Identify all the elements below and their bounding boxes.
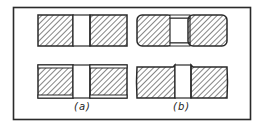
panel-b-top-block (137, 15, 227, 46)
panel-a-bottom-block (38, 65, 127, 98)
panel-a-label: (a) (74, 101, 91, 112)
diagram-canvas (0, 0, 261, 127)
panel-a-top-block (38, 15, 127, 46)
panel-b-label: (b) (173, 101, 190, 112)
panel-b-bottom-block (137, 65, 228, 98)
